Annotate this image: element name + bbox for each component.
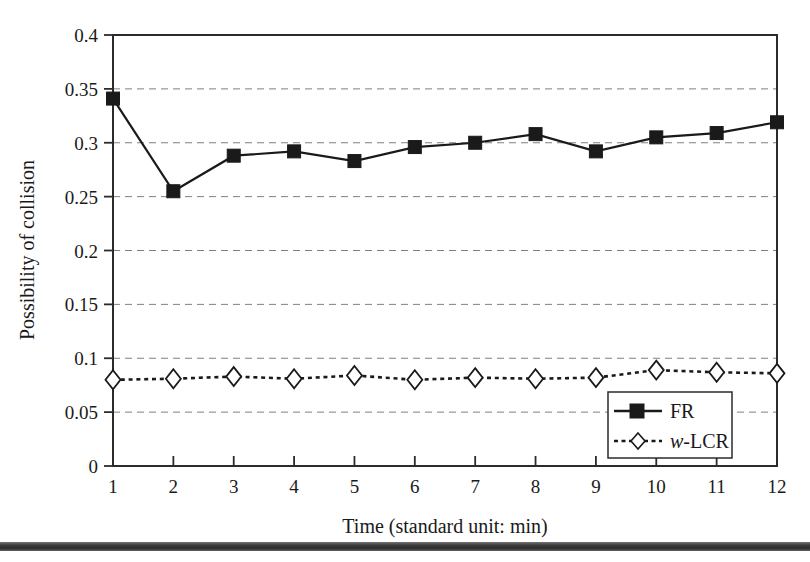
y-tick-label: 0.05 [65, 402, 98, 423]
y-tick-label: 0.4 [74, 25, 98, 46]
data-point-marker-square [589, 145, 602, 158]
y-tick-label: 0.15 [65, 294, 98, 315]
x-tick-label: 2 [169, 476, 179, 497]
data-point-marker-square [408, 141, 421, 154]
legend-label-wlcr: w-LCR [670, 430, 730, 452]
y-tick-label: 0.3 [74, 133, 98, 154]
x-tick-label: 1 [108, 476, 118, 497]
x-tick-label: 11 [707, 476, 725, 497]
x-axis-title: Time (standard unit: min) [342, 515, 547, 538]
data-point-marker-square [288, 145, 301, 158]
data-point-marker-square [529, 128, 542, 141]
data-point-marker-square [469, 136, 482, 149]
data-point-marker-square [710, 127, 723, 140]
line-chart: 00.050.10.150.20.250.30.350.4 1234567891… [0, 0, 810, 562]
filled-square-icon [630, 404, 644, 418]
legend-label-fr: FR [670, 400, 695, 422]
x-tick-label: 4 [289, 476, 299, 497]
y-tick-label: 0.2 [74, 241, 98, 262]
x-tick-label: 7 [470, 476, 480, 497]
y-axis-title: Possibility of collision [16, 160, 39, 340]
x-tick-label: 3 [229, 476, 239, 497]
x-tick-label: 10 [647, 476, 666, 497]
data-point-marker-square [107, 92, 120, 105]
chart-legend: FR w-LCR [608, 392, 732, 458]
y-tick-label: 0.1 [74, 348, 98, 369]
data-point-marker-square [227, 149, 240, 162]
chart-figure: 00.050.10.150.20.250.30.350.4 1234567891… [0, 0, 810, 562]
y-tick-label: 0.35 [65, 79, 98, 100]
x-tick-label: 12 [768, 476, 787, 497]
scan-artifact-bar [0, 542, 810, 551]
data-point-marker-square [348, 155, 361, 168]
data-point-marker-square [650, 131, 663, 144]
x-tick-label: 9 [591, 476, 601, 497]
y-tick-label: 0 [89, 456, 99, 477]
y-axis-tick-labels: 00.050.10.150.20.250.30.350.4 [65, 25, 99, 477]
x-tick-label: 5 [350, 476, 360, 497]
x-axis-tick-labels: 123456789101112 [108, 476, 786, 497]
data-point-marker-square [167, 185, 180, 198]
y-tick-label: 0.25 [65, 187, 98, 208]
x-tick-label: 8 [531, 476, 541, 497]
data-point-marker-square [771, 116, 784, 129]
x-tick-label: 6 [410, 476, 420, 497]
